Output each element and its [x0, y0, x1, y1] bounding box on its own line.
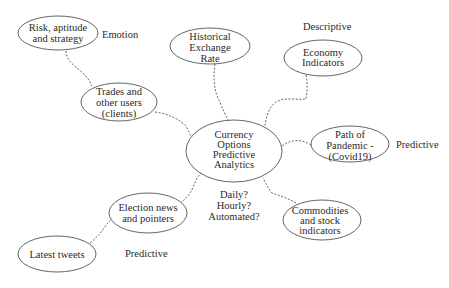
node-pandemic-line-2: Pandemic - — [326, 140, 374, 151]
node-economy-line-2: Indicators — [302, 57, 344, 68]
node-pandemic[interactable]: Path of Pandemic - (Covid19) — [311, 126, 389, 163]
edge-risk-trades — [66, 51, 92, 86]
node-tweets[interactable]: Latest tweets — [18, 236, 96, 272]
frequency-automated: Automated? — [208, 211, 260, 222]
node-historical[interactable]: Historical Exchange Rate — [170, 28, 250, 64]
node-commodities-line-3: indicators — [299, 225, 340, 236]
node-economy[interactable]: Economy Indicators — [284, 40, 362, 76]
node-election-line-1: Election news — [118, 202, 177, 213]
edge-tweets-election — [90, 219, 112, 243]
node-commodities[interactable]: Commodities and stock indicators — [283, 200, 361, 240]
edge-pandemic-center — [282, 141, 311, 146]
node-trades-line-2: other users — [96, 97, 142, 108]
edge-election-center — [180, 170, 204, 203]
annotation-frequency: Daily? Hourly? Automated? — [208, 189, 260, 222]
node-tweets-line-1: Latest tweets — [29, 249, 84, 260]
annotation-predictive-tweets: Predictive — [125, 248, 168, 259]
center-line-4: Analytics — [214, 159, 254, 170]
node-pandemic-line-3: (Covid19) — [328, 151, 372, 163]
edge-commodities-center — [263, 178, 296, 203]
edge-trades-center — [155, 112, 191, 136]
annotation-descriptive: Descriptive — [303, 21, 352, 32]
node-risk-line-2: and strategy — [32, 33, 84, 44]
frequency-daily: Daily? — [220, 189, 248, 200]
node-election[interactable]: Election news and pointers — [109, 193, 187, 233]
node-trades-line-3: (clients) — [102, 108, 137, 120]
node-pandemic-line-1: Path of — [335, 129, 366, 140]
node-historical-line-1: Historical — [189, 31, 230, 42]
node-historical-line-3: Rate — [200, 53, 220, 64]
node-risk[interactable]: Risk, aptitude and strategy — [18, 16, 98, 50]
node-election-line-2: and pointers — [122, 213, 174, 224]
mind-map-canvas: Risk, aptitude and strategy Trades and o… — [0, 0, 449, 288]
frequency-hourly: Hourly? — [217, 200, 252, 211]
node-historical-line-2: Exchange — [189, 42, 231, 53]
edge-historical-center — [214, 64, 228, 120]
annotation-predictive-pandemic: Predictive — [396, 139, 439, 150]
annotation-emotion: Emotion — [102, 29, 139, 40]
node-trades-line-1: Trades and — [96, 86, 143, 97]
edge-economy-center — [265, 75, 307, 126]
node-center[interactable]: Currency Options Predictive Analytics — [186, 120, 282, 182]
node-trades[interactable]: Trades and other users (clients) — [81, 83, 157, 121]
node-risk-line-1: Risk, aptitude — [29, 22, 88, 33]
